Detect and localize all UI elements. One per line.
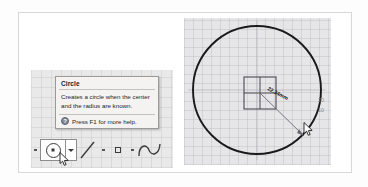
line-tool[interactable] bbox=[77, 139, 99, 161]
circle-tooltip: Circle Creates a circle when the center … bbox=[55, 76, 159, 129]
arrow-cursor-toolbar bbox=[59, 152, 71, 167]
radius-leader-line bbox=[260, 93, 304, 136]
dot-separator-3 bbox=[128, 139, 137, 161]
tooltip-description-line-2: and the radius are known. bbox=[61, 102, 153, 111]
drawing-toolbar bbox=[31, 138, 173, 162]
spline-curve-icon bbox=[138, 140, 162, 160]
ruler-mark-20: 20 bbox=[318, 97, 324, 103]
ruler-mark-10: 10 bbox=[318, 107, 324, 113]
screenshot-root: Circle Creates a circle when the center … bbox=[0, 0, 368, 187]
square-outline-icon bbox=[115, 147, 121, 153]
tooltip-title: Circle bbox=[56, 77, 158, 88]
small-square-icon bbox=[34, 149, 37, 152]
tooltip-footer: Press F1 for more help. bbox=[56, 115, 158, 128]
cad-canvas[interactable] bbox=[184, 18, 331, 165]
tooltip-help-text: Press F1 for more help. bbox=[72, 118, 137, 125]
arrow-cursor-canvas bbox=[303, 122, 315, 137]
help-question-icon bbox=[61, 117, 69, 125]
diagonal-line-icon bbox=[79, 140, 97, 160]
small-square-icon bbox=[102, 149, 105, 152]
dot-separator-2 bbox=[99, 139, 108, 161]
rectangle-tool[interactable] bbox=[108, 139, 128, 161]
small-square-icon bbox=[131, 149, 134, 152]
tooltip-description-line-1: Creates a circle when the center bbox=[61, 93, 153, 102]
tooltip-description: Creates a circle when the center and the… bbox=[56, 90, 158, 114]
spline-tool[interactable] bbox=[137, 139, 163, 161]
cad-geometry bbox=[178, 12, 337, 171]
dot-separator-1 bbox=[31, 139, 40, 161]
